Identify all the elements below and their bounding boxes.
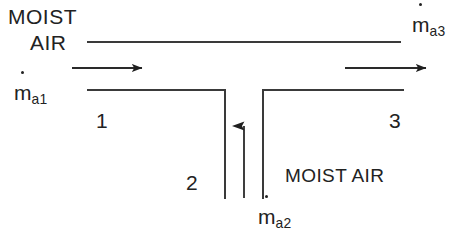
stream-number-1: 1	[96, 110, 108, 131]
mdot-letter-stream1: m	[14, 81, 32, 104]
moist-air-mixing-diagram: MOIST AIR ma1 ma3 ma2 1 3 2 MOIST AIR	[0, 0, 472, 252]
moist-air-heading-line2: AIR	[30, 32, 67, 53]
left-duct-lower-wall	[88, 90, 225, 198]
mdot-subscript-stream1: a1	[32, 91, 48, 107]
mdot-letter-stream2: m	[258, 205, 276, 228]
mdot-letter-stream3: m	[412, 13, 430, 36]
moist-air-heading-line1: MOIST	[8, 6, 77, 27]
mass-flow-rate-label-stream2: ma2	[258, 206, 292, 231]
mass-flow-rate-label-stream1: ma1	[14, 82, 48, 107]
mdot-subscript-stream3: a3	[430, 23, 446, 39]
mass-flow-rate-label-stream3: ma3	[412, 14, 446, 39]
stream-number-2: 2	[186, 172, 198, 193]
mdot-base-stream3: m	[412, 14, 430, 35]
stream-number-3: 3	[389, 110, 401, 131]
moist-air-caption: MOIST AIR	[285, 166, 384, 185]
duct-schematic	[0, 0, 472, 252]
mdot-base-stream2: m	[258, 206, 276, 227]
mdot-base-stream1: m	[14, 82, 32, 103]
mdot-subscript-stream2: a2	[276, 215, 292, 231]
